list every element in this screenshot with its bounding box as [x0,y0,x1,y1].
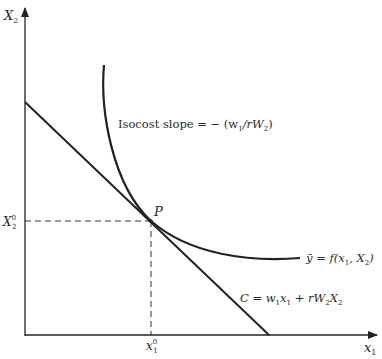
y-tick-x2-zero: X02 [2,214,16,231]
point-p-label: P [153,204,163,219]
x-tick-x1-zero: x01 [146,338,158,355]
isoquant-curve [103,65,300,259]
y-axis-label: X2 [3,8,18,25]
x-axis-label: x1 [364,340,376,357]
isocost-slope-annotation: Isocost slope = − (w1/rW2) [118,117,273,133]
isoquant-label: ȳ = f(x1, X2) [305,251,374,267]
tangency-point [149,219,153,223]
isoquant-diagram: X2 x1 P X02 x01 Isocost slope = − (w1/rW… [0,0,382,359]
isocost-equation-label: C = w1x1 + rW2X2 [240,291,342,307]
